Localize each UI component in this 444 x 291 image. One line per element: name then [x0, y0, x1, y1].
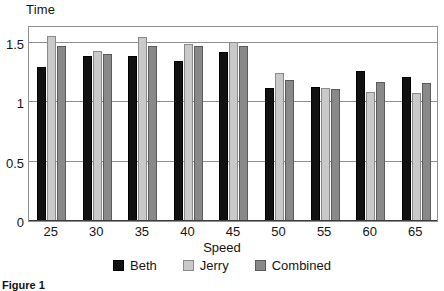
x-tick-label: 55 — [317, 224, 331, 239]
x-tick-label: 65 — [408, 224, 422, 239]
plot-area — [28, 26, 438, 222]
bar-group — [120, 27, 166, 221]
bar-combined-50 — [285, 80, 294, 221]
bar-groups — [29, 27, 437, 221]
bar-jerry-50 — [275, 73, 284, 221]
bar-beth-35 — [128, 56, 137, 221]
bar-combined-60 — [376, 82, 385, 221]
bar-beth-45 — [219, 52, 228, 221]
bar-jerry-55 — [321, 88, 330, 221]
x-axis-baseline — [29, 220, 437, 221]
bar-combined-45 — [239, 46, 248, 221]
figure-caption: Figure 1 — [2, 279, 45, 291]
y-tick-label: 1.5 — [6, 36, 24, 51]
bar-group — [257, 27, 303, 221]
legend-item-jerry[interactable]: Jerry — [183, 258, 229, 273]
y-tick-label: 0.5 — [6, 155, 24, 170]
x-axis-title: Speed — [0, 240, 444, 255]
x-tick-label: 60 — [362, 224, 376, 239]
bar-jerry-60 — [366, 92, 375, 221]
x-tick-label: 50 — [271, 224, 285, 239]
legend-swatch-icon — [113, 260, 124, 271]
bar-jerry-30 — [93, 51, 102, 221]
x-tick-label: 40 — [180, 224, 194, 239]
bar-beth-65 — [402, 77, 411, 221]
legend-swatch-icon — [255, 260, 266, 271]
bar-combined-35 — [148, 46, 157, 221]
legend-item-combined[interactable]: Combined — [255, 258, 331, 273]
bar-beth-55 — [311, 87, 320, 221]
bar-beth-60 — [356, 71, 365, 221]
bar-combined-30 — [103, 54, 112, 221]
bar-group — [302, 27, 348, 221]
bar-beth-40 — [174, 61, 183, 221]
bar-group — [393, 27, 439, 221]
legend-label: Beth — [130, 258, 157, 273]
bar-combined-55 — [331, 89, 340, 221]
y-tick-label: 1 — [17, 96, 24, 111]
x-tick-label: 35 — [135, 224, 149, 239]
legend-label: Combined — [272, 258, 331, 273]
bar-jerry-65 — [412, 93, 421, 221]
bar-combined-40 — [194, 46, 203, 221]
bar-jerry-35 — [138, 37, 147, 221]
bar-beth-30 — [83, 56, 92, 221]
legend-item-beth[interactable]: Beth — [113, 258, 157, 273]
y-axis-tick-labels: 00.511.5 — [0, 26, 26, 222]
bar-group — [348, 27, 394, 221]
y-tick-label: 0 — [17, 215, 24, 230]
bar-jerry-45 — [229, 42, 238, 221]
x-tick-label: 30 — [89, 224, 103, 239]
chart-legend: BethJerryCombined — [0, 258, 444, 273]
bar-group — [29, 27, 75, 221]
legend-swatch-icon — [183, 260, 194, 271]
bar-beth-25 — [37, 67, 46, 221]
bar-jerry-25 — [47, 36, 56, 221]
bar-group — [75, 27, 121, 221]
bar-group — [211, 27, 257, 221]
bar-beth-50 — [265, 88, 274, 221]
legend-label: Jerry — [200, 258, 229, 273]
bar-combined-25 — [57, 46, 66, 221]
y-axis-title: Time — [26, 2, 55, 17]
bar-jerry-40 — [184, 44, 193, 221]
bar-group — [166, 27, 212, 221]
x-tick-label: 25 — [44, 224, 58, 239]
bar-combined-65 — [422, 83, 431, 221]
x-tick-label: 45 — [226, 224, 240, 239]
